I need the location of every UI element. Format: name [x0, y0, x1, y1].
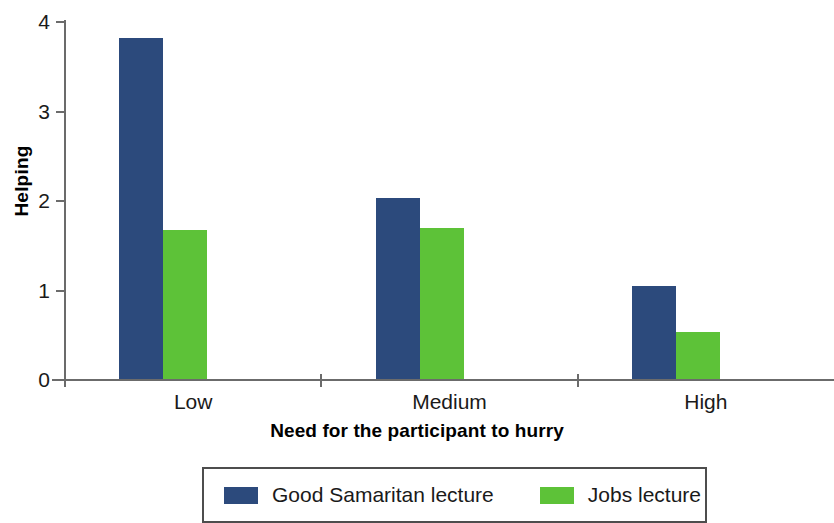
- legend-item: Jobs lecture: [540, 483, 701, 507]
- x-axis-title: Need for the participant to hurry: [0, 420, 834, 442]
- x-axis-tick: [320, 374, 322, 387]
- legend-swatch: [540, 487, 574, 504]
- x-axis-category-label: Medium: [360, 390, 540, 414]
- x-axis-category-label: Low: [103, 390, 283, 414]
- x-axis-line: [52, 379, 834, 381]
- legend-item: Good Samaritan lecture: [224, 483, 494, 507]
- x-axis-category-label: High: [616, 390, 796, 414]
- legend: Good Samaritan lectureJobs lecture: [202, 467, 707, 523]
- bar: [376, 198, 420, 380]
- legend-label: Jobs lecture: [588, 483, 701, 507]
- bar: [119, 38, 163, 380]
- bar: [420, 228, 464, 380]
- x-axis-tick: [577, 374, 579, 387]
- bar: [632, 286, 676, 380]
- bar: [676, 332, 720, 380]
- legend-swatch: [224, 487, 258, 504]
- bars-layer: [0, 0, 834, 380]
- x-axis-tick: [64, 374, 66, 387]
- legend-label: Good Samaritan lecture: [272, 483, 494, 507]
- bar: [163, 230, 207, 380]
